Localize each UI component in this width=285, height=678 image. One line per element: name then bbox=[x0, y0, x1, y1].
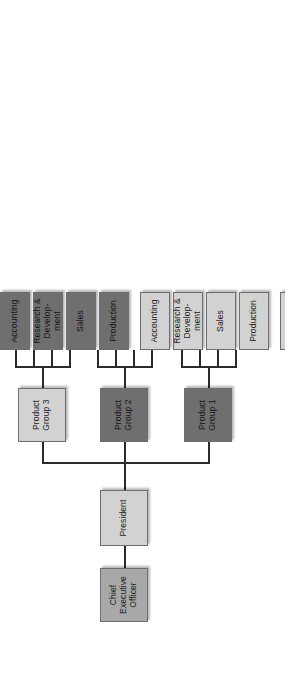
connector-president-trunk bbox=[124, 464, 126, 490]
pg3-production-label: Production bbox=[109, 300, 119, 342]
pg3-sales-label: Sales bbox=[76, 310, 86, 332]
node-product-group-3[interactable]: Product Group 3 bbox=[18, 388, 66, 442]
connector-pg3-production bbox=[69, 350, 71, 368]
connector-pg3-rnd bbox=[33, 350, 35, 368]
node-product-group-1[interactable]: Product Group 1 bbox=[184, 388, 232, 442]
connector-pg1-accounting bbox=[181, 350, 183, 368]
node-pg3-production[interactable]: Production bbox=[99, 292, 129, 350]
connector-pg3-accounting bbox=[15, 350, 17, 368]
figure-caption: FIGURE 13.5A Product Organization bbox=[271, 672, 283, 678]
connector-pg2-sales bbox=[133, 350, 135, 368]
connector-pg1-bus bbox=[181, 367, 235, 369]
pg2-production-label: Production bbox=[249, 300, 259, 342]
pg3-accounting-label: Accounting bbox=[10, 299, 20, 342]
figure-root: Chief Executive Officer President Produc… bbox=[0, 0, 285, 678]
connector-pg2-production bbox=[151, 350, 153, 368]
node-pg3-research-development[interactable]: Research & Develop- ment bbox=[33, 292, 63, 350]
pg1-label-line2: Group 1 bbox=[208, 399, 218, 430]
connector-trunk-pg1 bbox=[208, 442, 210, 464]
pg3-label-line2: Group 3 bbox=[42, 399, 52, 430]
connector-ceo-president bbox=[124, 546, 126, 568]
connector-pg1-stem bbox=[208, 368, 210, 388]
node-pg3-sales[interactable]: Sales bbox=[66, 292, 96, 350]
pg3-rnd-label-line3: ment bbox=[53, 311, 63, 330]
connector-pg1-rnd bbox=[199, 350, 201, 368]
connector-trunk-pg3 bbox=[42, 442, 44, 464]
node-product-group-2[interactable]: Product Group 2 bbox=[100, 388, 148, 442]
node-pg3-accounting[interactable]: Accounting bbox=[0, 292, 30, 350]
connector-pg3-stem bbox=[42, 368, 44, 388]
pg2-sales-label: Sales bbox=[216, 310, 226, 332]
connector-pg2-stem bbox=[124, 368, 126, 388]
node-pg2-research-development[interactable]: Research & Develop- ment bbox=[173, 292, 203, 350]
pg2-label-line2: Group 2 bbox=[124, 399, 134, 430]
node-president[interactable]: President bbox=[100, 490, 148, 546]
pg2-rnd-label-line3: ment bbox=[193, 311, 203, 330]
president-label: President bbox=[119, 500, 129, 537]
connector-pg2-bus bbox=[97, 367, 151, 369]
connector-pg3-sales bbox=[51, 350, 53, 368]
node-pg2-production[interactable]: Production bbox=[239, 292, 269, 350]
org-chart-canvas: Chief Executive Officer President Produc… bbox=[0, 0, 250, 640]
pg2-accounting-label: Accounting bbox=[150, 299, 160, 342]
node-pg2-sales[interactable]: Sales bbox=[206, 292, 236, 350]
connector-pg2-accounting bbox=[97, 350, 99, 368]
connector-pg3-bus bbox=[15, 367, 69, 369]
ceo-label-line3: Officer bbox=[129, 582, 139, 608]
node-pg1-accounting[interactable]: Accounting bbox=[280, 292, 285, 350]
node-chief-executive-officer[interactable]: Chief Executive Officer bbox=[100, 568, 148, 622]
connector-pg1-production bbox=[235, 350, 237, 368]
connector-pg2-rnd bbox=[115, 350, 117, 368]
node-pg2-accounting[interactable]: Accounting bbox=[140, 292, 170, 350]
connector-trunk-pg2 bbox=[124, 442, 126, 464]
connector-pg1-sales bbox=[217, 350, 219, 368]
